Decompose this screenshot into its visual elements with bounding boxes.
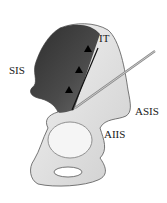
label-aiis: AIIS <box>104 129 125 140</box>
bone-illustration <box>0 0 167 203</box>
label-it: IT <box>99 33 109 44</box>
label-asis: ASIS <box>135 106 159 117</box>
acetabulum <box>48 122 92 158</box>
label-sis: SIS <box>9 65 25 76</box>
obturator-foramen <box>54 167 82 177</box>
ilium-figure <box>0 0 167 203</box>
